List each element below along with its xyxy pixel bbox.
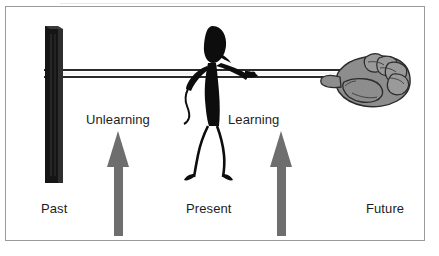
label-future: Future — [366, 201, 404, 216]
label-unlearning: Unlearning — [86, 112, 150, 127]
future-hand — [321, 54, 410, 107]
label-learning: Learning — [228, 112, 279, 127]
stick-figure-person — [184, 26, 258, 180]
diagram-illustration — [0, 0, 439, 256]
diagram-canvas: Unlearning Learning Past Present Future — [0, 0, 439, 256]
arrow-learning — [270, 131, 292, 236]
past-post — [45, 26, 63, 183]
label-past: Past — [41, 201, 67, 216]
arrow-unlearning — [107, 131, 129, 236]
label-present: Present — [186, 201, 232, 216]
